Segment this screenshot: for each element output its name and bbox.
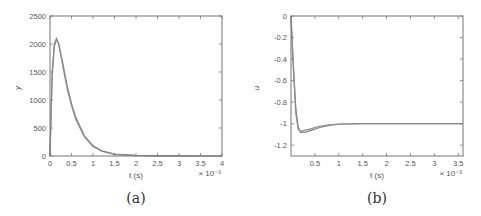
x-tick-label: 3.5: [195, 159, 205, 168]
y-tick-label: 2000: [29, 40, 46, 49]
y-tick-label: -1.2: [274, 141, 287, 150]
panel-b-y-axis-label: u: [252, 85, 261, 90]
y-tick-label: -0.4: [274, 55, 287, 64]
panel-b-y-ticks: 0-0.2-0.4-0.6-0.8-1-1.2: [274, 12, 463, 150]
x-tick-label: 4: [220, 159, 224, 168]
data-series-line: [50, 38, 222, 156]
y-tick-label: 1500: [29, 68, 46, 77]
x-tick-label: 2: [384, 159, 388, 168]
y-tick-label: -0.8: [274, 98, 287, 107]
figure: 00.511.522.533.54 05001000150020002500 y…: [0, 0, 481, 216]
x-tick-label: 1: [91, 159, 95, 168]
x-tick-label: 1.5: [357, 159, 367, 168]
y-tick-label: -0.6: [274, 76, 287, 85]
x-tick-label: 0.5: [66, 159, 76, 168]
panel-b-caption: (b): [367, 190, 387, 206]
y-tick-label: 500: [33, 124, 46, 133]
panel-a-x-ticks: 00.511.522.533.54: [48, 16, 224, 168]
panel-a-y-axis-label: y: [13, 85, 22, 91]
x-tick-label: 2.5: [405, 159, 415, 168]
y-tick-label: -0.2: [274, 33, 287, 42]
x-tick-label: 3: [177, 159, 181, 168]
y-tick-label: -1: [280, 119, 287, 128]
data-series-line: [291, 16, 463, 131]
panel-a-curves: [50, 38, 222, 156]
panel-b-x-axis-label: t (s): [370, 171, 384, 180]
x-tick-label: 1: [337, 159, 341, 168]
panel-a-chart: 00.511.522.533.54 05001000150020002500 y…: [13, 12, 224, 207]
x-tick-label: 0: [48, 159, 52, 168]
panel-a-x-axis-label: t (s): [129, 171, 143, 180]
data-series-line: [50, 40, 222, 156]
data-series-line: [291, 16, 463, 132]
panel-a-caption: (a): [126, 190, 145, 206]
x-tick-label: 1.5: [109, 159, 119, 168]
x-tick-label: 3.5: [453, 159, 463, 168]
panel-a-x-multiplier: × 10⁻⁵: [198, 169, 221, 178]
panel-a-y-ticks: 05001000150020002500: [29, 12, 222, 161]
x-tick-label: 2: [134, 159, 138, 168]
panel-b-x-multiplier: × 10⁻⁵: [439, 169, 462, 178]
panel-a-frame: [50, 16, 222, 156]
y-tick-label: 1000: [29, 96, 46, 105]
y-tick-label: 0: [283, 12, 287, 21]
panel-b-chart: 0.511.522.533.5 0-0.2-0.4-0.6-0.8-1-1.2 …: [252, 12, 463, 207]
panel-b-frame: [291, 16, 463, 156]
panel-b-x-ticks: 0.511.522.533.5: [310, 16, 464, 168]
x-tick-label: 3: [432, 159, 436, 168]
x-tick-label: 0.5: [310, 159, 320, 168]
y-tick-label: 2500: [29, 12, 46, 21]
panel-b-curves: [291, 16, 463, 132]
y-tick-label: 0: [42, 152, 46, 161]
x-tick-label: 2.5: [152, 159, 162, 168]
